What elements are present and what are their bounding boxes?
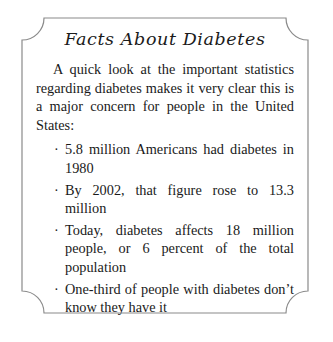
bullet-icon: · <box>54 280 59 299</box>
list-item-label: One-third of people with diabetes don’t … <box>65 281 294 316</box>
list-item-label: 5.8 million Americans had diabetes in 19… <box>65 141 294 176</box>
list-item: · One-third of people with diabetes don’… <box>54 280 294 317</box>
list-item: · By 2002, that figure rose to 13.3 mill… <box>54 181 294 218</box>
list-item-label: Today, diabetes affects 18 million peopl… <box>65 222 294 275</box>
list-item: · Today, diabetes affects 18 million peo… <box>54 221 294 277</box>
list-item: · 5.8 million Americans had diabetes in … <box>54 140 294 177</box>
list-item-label: By 2002, that figure rose to 13.3 millio… <box>65 182 294 217</box>
bullet-icon: · <box>54 181 59 200</box>
page-title: Facts About Diabetes <box>36 29 294 49</box>
bullet-icon: · <box>54 140 59 159</box>
card-content: Facts About Diabetes A quick look at the… <box>22 18 308 313</box>
bullet-icon: · <box>54 221 59 240</box>
facts-list: · 5.8 million Americans had diabetes in … <box>36 140 294 316</box>
intro-paragraph: A quick look at the important statistics… <box>36 60 294 134</box>
facts-card-page: Facts About Diabetes A quick look at the… <box>0 0 333 342</box>
